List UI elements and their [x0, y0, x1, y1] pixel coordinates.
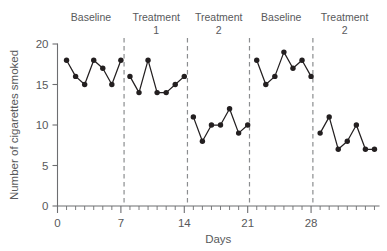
y-axis-title: Number of cigarettes smoked	[8, 50, 20, 200]
data-series-group	[64, 49, 377, 152]
data-point	[191, 114, 196, 119]
data-point	[127, 74, 132, 79]
y-axis-tick-label: 15	[36, 79, 49, 91]
data-point	[64, 58, 69, 63]
data-point	[227, 106, 232, 111]
x-axis-major-ticks	[58, 206, 312, 213]
phase-label-group: BaselineTreatment1Treatment2BaselineTrea…	[71, 11, 369, 36]
data-point	[336, 147, 341, 152]
data-point	[145, 58, 150, 63]
data-point	[163, 90, 168, 95]
data-point	[281, 49, 286, 54]
y-axis-tick-label: 10	[36, 119, 49, 131]
data-point	[354, 122, 359, 127]
data-point	[200, 139, 205, 144]
phase-label-2-sub: 1	[153, 24, 159, 36]
data-point	[245, 122, 250, 127]
data-point	[326, 114, 331, 119]
data-point	[100, 66, 105, 71]
data-point	[118, 58, 123, 63]
data-point	[363, 147, 368, 152]
phase-label-5: Treatment	[321, 11, 369, 23]
data-point	[73, 74, 78, 79]
y-axis-tick-label: 5	[42, 160, 48, 172]
line-chart-svg: BaselineTreatment1Treatment2BaselineTrea…	[0, 0, 387, 251]
phase-label-5-sub: 2	[342, 24, 348, 36]
phase-divider-group	[124, 38, 313, 206]
data-point	[290, 66, 295, 71]
x-axis-tick-labels: 07142128	[54, 217, 317, 229]
data-point	[154, 90, 159, 95]
data-point	[209, 122, 214, 127]
x-axis-title: Days	[205, 233, 231, 245]
x-axis-tick-label: 28	[305, 217, 318, 229]
data-point	[82, 82, 87, 87]
y-axis-tick-labels: 05101520	[36, 38, 49, 212]
data-point	[91, 58, 96, 63]
phase-label-3-sub: 2	[216, 24, 222, 36]
x-axis-tick-label: 14	[178, 217, 191, 229]
data-line-segment-5	[320, 117, 374, 149]
data-point	[236, 130, 241, 135]
data-point	[173, 82, 178, 87]
data-point	[272, 74, 277, 79]
data-point	[372, 147, 377, 152]
data-point	[308, 74, 313, 79]
chart-container: BaselineTreatment1Treatment2BaselineTrea…	[0, 0, 387, 251]
x-axis-tick-label: 21	[241, 217, 254, 229]
data-line-segment-4	[257, 52, 311, 84]
data-line-segment-1	[67, 60, 121, 84]
data-point	[254, 58, 259, 63]
data-point	[218, 122, 223, 127]
x-axis-minor-ticks	[67, 206, 375, 210]
data-point	[109, 82, 114, 87]
phase-label-3: Treatment	[195, 11, 243, 23]
data-point	[317, 130, 322, 135]
y-axis-ticks	[53, 44, 58, 206]
y-axis: 05101520	[36, 38, 58, 212]
data-point	[136, 90, 141, 95]
data-line-segment-2	[130, 60, 184, 92]
data-point	[182, 74, 187, 79]
x-axis-tick-label: 7	[118, 217, 124, 229]
y-axis-tick-label: 0	[42, 200, 48, 212]
x-axis: 07142128	[54, 206, 379, 229]
data-point	[263, 82, 268, 87]
y-axis-tick-label: 20	[36, 38, 49, 50]
x-axis-tick-label: 0	[54, 217, 60, 229]
data-point	[345, 139, 350, 144]
phase-label-4: Baseline	[261, 11, 301, 23]
phase-label-2: Treatment	[132, 11, 180, 23]
data-point	[299, 58, 304, 63]
phase-label-1: Baseline	[71, 11, 111, 23]
